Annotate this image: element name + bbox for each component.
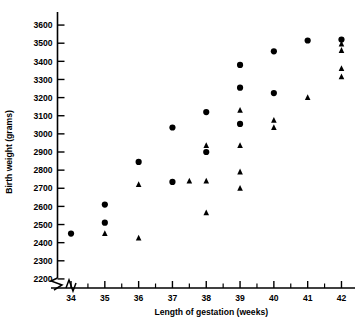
y-tick-label: 2700 <box>33 183 52 193</box>
data-point-triangle <box>271 117 277 123</box>
data-point-circle <box>203 109 209 115</box>
series-circle-group <box>68 36 345 236</box>
y-tick-label: 3400 <box>33 57 52 67</box>
x-tick-label: 34 <box>66 293 76 303</box>
x-tick-label: 36 <box>134 293 144 303</box>
data-point-triangle <box>339 73 345 79</box>
data-point-triangle <box>237 107 243 113</box>
data-point-triangle <box>305 94 311 100</box>
data-point-circle <box>136 159 142 165</box>
data-point-triangle <box>339 65 345 71</box>
data-point-circle <box>237 85 243 91</box>
data-point-circle <box>68 231 74 237</box>
data-point-circle <box>305 37 311 43</box>
y-tick-label: 2900 <box>33 147 52 157</box>
chart-canvas: 2200230024002500260027002800290030003100… <box>0 0 362 325</box>
y-tick-label: 3200 <box>33 93 52 103</box>
data-point-triangle <box>271 124 277 130</box>
x-axis-label: Length of gestation (weeks) <box>154 307 268 317</box>
series-triangle-group <box>102 41 344 241</box>
scatter-chart: 2200230024002500260027002800290030003100… <box>0 0 362 325</box>
y-tick-label: 3000 <box>33 129 52 139</box>
data-point-triangle <box>203 178 209 184</box>
data-point-triangle <box>339 47 345 53</box>
y-tick-label: 3100 <box>33 111 52 121</box>
data-point-circle <box>237 121 243 127</box>
y-tick-label: 2500 <box>33 220 52 230</box>
x-tick-label: 41 <box>303 293 313 303</box>
x-tick-label: 37 <box>168 293 178 303</box>
y-axis-label: Birth weight (grams) <box>4 110 14 194</box>
data-point-triangle <box>102 230 108 236</box>
y-tick-label: 3600 <box>33 20 52 30</box>
data-point-circle <box>102 201 108 207</box>
data-point-circle <box>271 48 277 54</box>
x-tick-label: 40 <box>269 293 279 303</box>
x-tick-label: 39 <box>235 293 245 303</box>
data-point-triangle <box>203 142 209 148</box>
data-point-triangle <box>237 142 243 148</box>
y-tick-label: 2200 <box>33 274 52 284</box>
y-tick-label: 3500 <box>33 38 52 48</box>
x-tick-label: 35 <box>100 293 110 303</box>
y-tick-label: 2300 <box>33 256 52 266</box>
data-point-circle <box>169 179 175 185</box>
data-point-circle <box>102 220 108 226</box>
data-point-triangle <box>187 178 193 184</box>
data-point-triangle <box>203 209 209 215</box>
y-tick-label: 2800 <box>33 165 52 175</box>
data-point-triangle <box>237 185 243 191</box>
x-tick-label: 38 <box>201 293 211 303</box>
data-point-triangle <box>136 181 142 187</box>
data-point-triangle <box>136 235 142 241</box>
data-point-circle <box>169 124 175 130</box>
y-tick-label: 2400 <box>33 238 52 248</box>
x-tick-label: 42 <box>337 293 347 303</box>
y-tick-label: 2600 <box>33 202 52 212</box>
data-point-circle <box>271 90 277 96</box>
data-point-triangle <box>237 169 243 175</box>
data-point-circle <box>203 149 209 155</box>
data-point-circle <box>237 62 243 68</box>
y-tick-label: 3300 <box>33 75 52 85</box>
